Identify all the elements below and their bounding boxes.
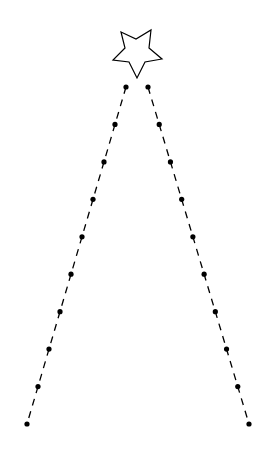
light-dot <box>168 159 173 164</box>
light-dot <box>112 122 117 127</box>
light-dot <box>79 234 84 239</box>
light-dot <box>68 272 73 277</box>
light-dot <box>46 347 51 352</box>
light-dot <box>101 159 106 164</box>
light-dot <box>35 384 40 389</box>
left-string-line <box>27 87 126 424</box>
light-dot <box>145 84 150 89</box>
light-dot <box>157 122 162 127</box>
light-dot <box>190 234 195 239</box>
light-dot <box>90 197 95 202</box>
light-dot <box>179 197 184 202</box>
star-icon <box>113 30 162 78</box>
light-dot <box>57 309 62 314</box>
light-dot <box>202 272 207 277</box>
tree-lights-drawing <box>0 0 271 452</box>
light-dot <box>235 384 240 389</box>
light-dot <box>213 309 218 314</box>
light-dot <box>224 347 229 352</box>
light-dot <box>246 421 251 426</box>
light-dot <box>123 84 128 89</box>
right-string-line <box>148 87 249 424</box>
light-dot <box>24 421 29 426</box>
